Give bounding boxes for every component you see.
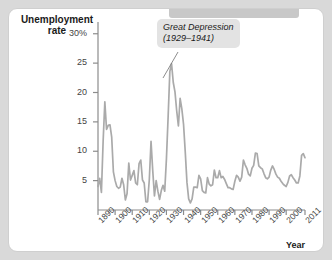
y-tick-label: 15 bbox=[53, 116, 87, 126]
data-series-group bbox=[98, 64, 305, 203]
y-tick-label: 30% bbox=[53, 28, 87, 38]
y-tick-label: 25 bbox=[53, 57, 87, 67]
y-tick-marks bbox=[93, 34, 98, 181]
y-tick-label: 5 bbox=[53, 175, 87, 185]
unemployment-rate-line bbox=[98, 64, 305, 203]
y-tick-label: 20 bbox=[53, 87, 87, 97]
y-tick-label: 10 bbox=[53, 145, 87, 155]
unemployment-line-chart bbox=[0, 0, 332, 260]
